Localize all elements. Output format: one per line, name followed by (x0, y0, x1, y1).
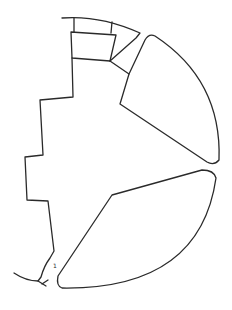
top-strip-divider-right (111, 22, 112, 33)
bottom-left-tick (42, 280, 48, 284)
diagram-canvas: 1 (0, 0, 232, 310)
lower-right-segment (58, 170, 217, 288)
small-triangle (110, 61, 129, 74)
upper-left-box (71, 32, 116, 61)
upper-right-segment (120, 35, 219, 164)
region-label-mark: 1 (53, 262, 57, 269)
stepped-left-boundary (25, 58, 73, 281)
